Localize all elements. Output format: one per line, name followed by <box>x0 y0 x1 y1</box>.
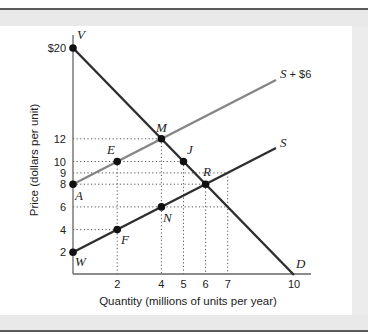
y-tick-8: 8 <box>60 178 66 190</box>
y-tick-10: 10 <box>54 156 66 168</box>
point-e <box>113 158 121 166</box>
label-n: N <box>162 210 173 225</box>
label-d: D <box>295 256 306 271</box>
label-a: A <box>74 188 83 203</box>
y-axis-title: Price (dollars per unit) <box>28 104 40 217</box>
label-e: E <box>106 142 115 157</box>
y-tick-20: $20 <box>48 42 66 54</box>
x-tick-2: 2 <box>114 278 120 290</box>
x-axis-title: Quantity (millions of units per year) <box>99 295 277 307</box>
x-tick-4: 4 <box>158 278 164 290</box>
point-f <box>113 226 121 234</box>
label-r: R <box>202 164 211 179</box>
label-supply: S <box>280 135 287 150</box>
supply-demand-chart: V M E J A R N F W D S + $6 S $20 12 10 9… <box>0 0 377 336</box>
y-tick-2: 2 <box>60 246 66 258</box>
x-tick-10: 10 <box>288 278 300 290</box>
point-v <box>69 44 77 52</box>
point-a <box>69 180 77 188</box>
supply-curve <box>73 148 276 252</box>
label-f: F <box>120 232 130 247</box>
point-r <box>202 180 210 188</box>
x-ticks: 2 4 5 6 7 10 <box>114 278 300 290</box>
point-m <box>158 135 166 143</box>
x-tick-7: 7 <box>225 278 231 290</box>
y-tick-6: 6 <box>60 201 66 213</box>
x-tick-5: 5 <box>180 278 186 290</box>
label-v: V <box>77 27 87 42</box>
x-tick-6: 6 <box>203 278 209 290</box>
y-ticks: $20 12 10 9 8 6 4 2 <box>48 42 66 258</box>
y-tick-12: 12 <box>54 133 66 145</box>
reference-lines <box>73 139 228 274</box>
label-m: M <box>155 120 168 135</box>
supply-plus-tax-curve <box>73 80 276 184</box>
label-w: W <box>75 254 87 269</box>
label-supply-plus-tax: S + $6 <box>280 66 311 81</box>
y-tick-4: 4 <box>60 224 66 236</box>
point-j <box>180 158 188 166</box>
label-j: J <box>187 142 194 157</box>
